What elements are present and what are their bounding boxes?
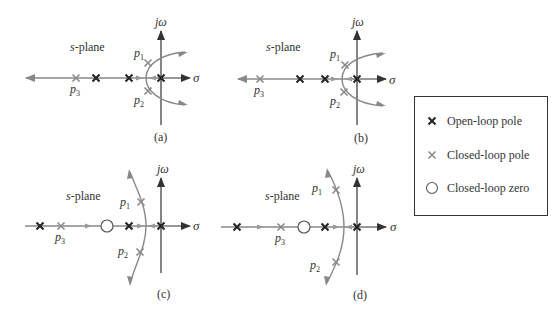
jw-axis-label: jω [155, 162, 169, 176]
legend-label: Open-loop pole [447, 114, 522, 129]
pole-label-p3: p3 [274, 231, 285, 247]
sigma-axis-label: σ [193, 218, 200, 233]
pole-label-p2: p2 [309, 258, 320, 274]
pole-label-p1: p1 [329, 47, 340, 63]
pole-label-p2: p2 [133, 93, 144, 109]
closed-loop-zero-circle-icon [425, 181, 439, 195]
jw-axis-label: jω [350, 15, 364, 29]
panel-d [221, 168, 386, 286]
panel-a [26, 31, 190, 125]
s-plane-label: s-plane [70, 40, 105, 54]
closed-loop-zero [101, 220, 113, 232]
jw-axis-label: jω [153, 15, 167, 29]
panel-caption-c: (c) [157, 287, 170, 301]
sigma-axis-label: σ [193, 70, 200, 85]
jw-axis-label: jω [351, 162, 365, 176]
legend-label: Closed-loop zero [447, 181, 529, 196]
panel-caption-a: (a) [154, 130, 167, 144]
legend-item-closed-loop-zero: Closed-loop zero [425, 180, 529, 196]
panel-caption-b: (b) [354, 131, 368, 145]
closed-loop-zero [298, 221, 310, 233]
pole-label-p2: p2 [117, 244, 128, 260]
sigma-axis-label: σ [390, 219, 397, 234]
pole-label-p3: p3 [69, 82, 80, 98]
legend-item-closed-loop-pole: Closed-loop pole [425, 147, 529, 163]
panel-c [25, 169, 190, 286]
open-loop-pole-x-icon [425, 114, 439, 128]
panel-b [238, 31, 386, 125]
legend-item-open-loop-pole: Open-loop pole [425, 113, 522, 129]
closed-loop-pole-p1 [145, 60, 152, 67]
s-plane-label: s-plane [266, 40, 301, 54]
s-plane-label: s-plane [66, 189, 101, 203]
pole-label-p2: p2 [329, 94, 340, 110]
sigma-axis-label: σ [389, 72, 396, 87]
closed-loop-pole-x-icon [425, 148, 439, 162]
pole-label-p1: p1 [119, 195, 130, 211]
pole-label-p3: p3 [54, 230, 65, 246]
pole-label-p1: p1 [311, 181, 322, 197]
legend-box: Open-loop pole Closed-loop pole Closed-l… [414, 96, 548, 216]
panel-caption-d: (d) [353, 288, 367, 302]
pole-label-p1: p1 [133, 46, 144, 62]
legend-label: Closed-loop pole [447, 148, 529, 163]
s-plane-label: s-plane [265, 189, 300, 203]
pole-label-p3: p3 [253, 83, 264, 99]
